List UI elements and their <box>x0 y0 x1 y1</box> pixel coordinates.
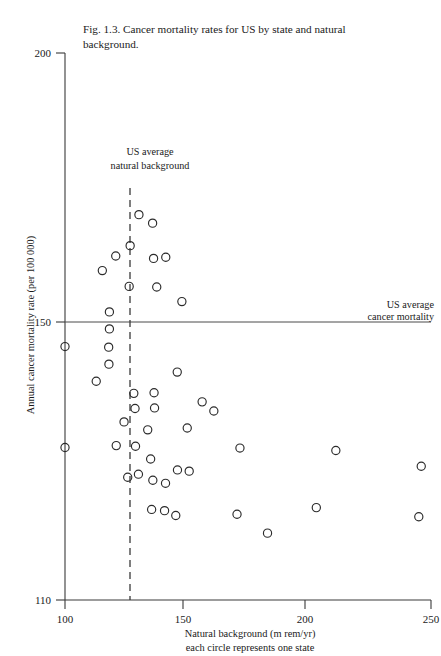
y-tick-label-200: 200 <box>35 47 52 59</box>
x-axis-title: Natural background (m rem/yr) <box>185 628 316 640</box>
data-point <box>160 507 168 515</box>
us-average-background-label-line2: natural background <box>111 160 190 171</box>
data-point <box>415 513 423 521</box>
figure-page: Fig. 1.3. Cancer mortality rates for US … <box>0 0 441 656</box>
data-point <box>263 529 271 537</box>
data-point <box>417 462 425 470</box>
data-point <box>125 282 133 290</box>
data-point <box>105 343 113 351</box>
data-point <box>183 424 191 432</box>
data-point <box>153 283 161 291</box>
y-tick-label-150: 150 <box>35 316 52 328</box>
us-average-mortality-label-line1: US average <box>387 299 435 310</box>
data-point <box>173 466 181 474</box>
data-point <box>149 254 157 262</box>
data-point <box>105 360 113 368</box>
us-average-mortality-label-line2: cancer mortality <box>368 311 435 322</box>
data-point <box>105 325 113 333</box>
data-point <box>120 418 128 426</box>
data-point <box>148 505 156 513</box>
x-tick-label-150: 150 <box>175 613 192 625</box>
x-tick-label-100: 100 <box>57 613 74 625</box>
x-tick-label-200: 200 <box>297 613 314 625</box>
data-point-group <box>61 211 425 538</box>
data-point <box>162 253 170 261</box>
data-point <box>332 446 340 454</box>
data-point <box>130 389 138 397</box>
data-point <box>185 467 193 475</box>
data-point <box>161 479 169 487</box>
data-point <box>135 211 143 219</box>
data-point <box>150 389 158 397</box>
data-point <box>312 504 320 512</box>
data-point <box>210 407 218 415</box>
data-point <box>98 266 106 274</box>
data-point <box>105 308 113 316</box>
data-point <box>134 470 142 478</box>
data-point <box>236 444 244 452</box>
data-point <box>149 219 157 227</box>
y-axis-title: Annual cancer mortality rate (per 100 00… <box>25 236 37 414</box>
data-point <box>172 511 180 519</box>
data-point <box>233 510 241 518</box>
x-axis-subtitle: each circle represents one state <box>186 642 315 653</box>
data-point <box>92 377 100 385</box>
data-point <box>131 442 139 450</box>
y-tick-label-110: 110 <box>35 594 52 606</box>
us-average-background-label-line1: US average <box>126 146 174 157</box>
data-point <box>112 252 120 260</box>
data-point <box>112 442 120 450</box>
data-point <box>144 426 152 434</box>
data-point <box>198 398 206 406</box>
data-point <box>178 297 186 305</box>
x-tick-label-250: 250 <box>423 613 440 625</box>
scatter-plot: 200 150 110 100 150 200 250 Natural back… <box>0 0 441 656</box>
data-point <box>147 455 155 463</box>
data-point <box>131 404 139 412</box>
data-point <box>150 404 158 412</box>
data-point <box>149 476 157 484</box>
data-point <box>173 368 181 376</box>
